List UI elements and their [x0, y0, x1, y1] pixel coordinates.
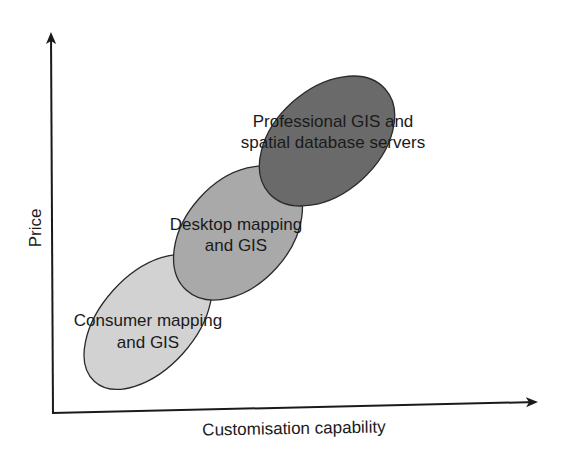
diagram-canvas: Professional GIS and spatial database se…: [0, 0, 568, 458]
x-axis-label: Customisation capability: [202, 417, 386, 439]
desktop-label-line2: and GIS: [205, 236, 267, 255]
professional-label-line1: Professional GIS and: [253, 112, 414, 131]
desktop-label-line1: Desktop mapping: [170, 215, 302, 234]
professional-label-line2: spatial database servers: [241, 133, 425, 152]
x-axis: [52, 402, 536, 413]
consumer-label-line1: Consumer mapping: [74, 311, 222, 330]
y-axis: [51, 34, 53, 413]
gis-price-capability-diagram: Professional GIS and spatial database se…: [0, 0, 568, 458]
consumer-label-line2: and GIS: [117, 333, 179, 352]
y-axis-label: Price: [26, 209, 45, 248]
